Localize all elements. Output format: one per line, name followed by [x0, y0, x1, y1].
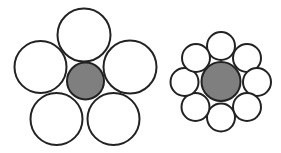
outer-circle — [233, 93, 261, 121]
outer-circle — [207, 32, 235, 60]
outer-circle — [15, 41, 67, 93]
outer-circle — [207, 104, 235, 132]
five-circle-arrangement — [15, 9, 157, 146]
outer-circle — [58, 9, 111, 62]
outer-circle — [243, 68, 271, 96]
outer-circle — [104, 41, 157, 94]
outer-circle — [88, 93, 140, 145]
eight-circle-arrangement — [171, 32, 272, 132]
core-circle — [202, 62, 241, 101]
outer-circle — [31, 93, 83, 145]
core-circle — [67, 63, 104, 100]
diagram-canvas — [0, 0, 281, 153]
outer-circle — [182, 93, 210, 121]
circle-packing-diagram — [0, 0, 281, 153]
